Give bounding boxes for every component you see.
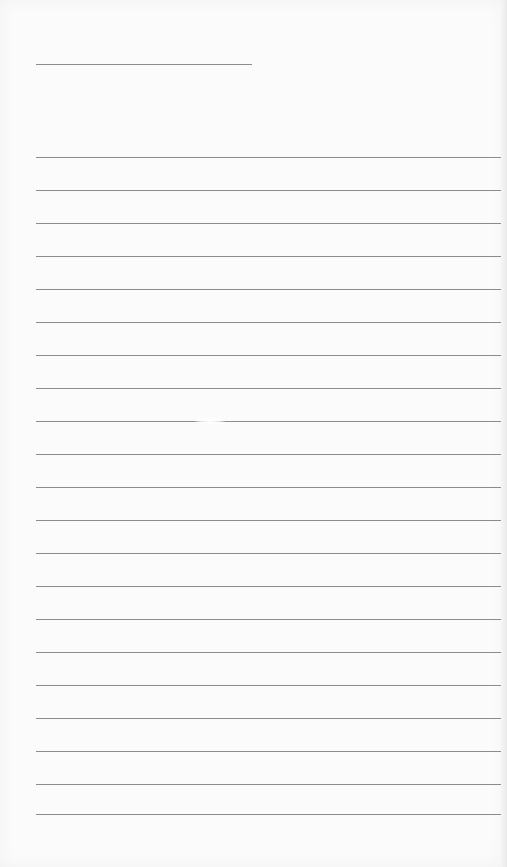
ruled-line: [36, 421, 504, 422]
ruled-line: [36, 619, 504, 620]
ruled-line: [36, 487, 504, 488]
ruled-line: [36, 322, 504, 323]
lined-paper-page: [0, 0, 503, 867]
ruled-line: [36, 685, 504, 686]
ruled-line: [36, 355, 504, 356]
paper-edge-shadow: [501, 0, 507, 867]
ruled-line: [36, 751, 504, 752]
ruled-line: [36, 223, 504, 224]
ruled-line: [36, 718, 504, 719]
ruled-line: [36, 553, 504, 554]
ruled-line: [36, 388, 504, 389]
ruled-line: [36, 784, 504, 785]
ruled-line: [36, 814, 504, 815]
header-name-line: [36, 64, 252, 65]
ruled-line: [36, 520, 504, 521]
ruled-line: [36, 157, 504, 158]
ruled-line: [36, 190, 504, 191]
ruled-line: [36, 454, 504, 455]
ruled-line: [36, 289, 504, 290]
ruled-line: [36, 652, 504, 653]
ruled-line: [36, 586, 504, 587]
light-glare: [195, 417, 225, 425]
ruled-line: [36, 256, 504, 257]
